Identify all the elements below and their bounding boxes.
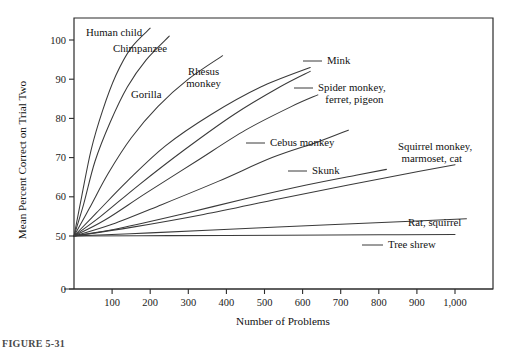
x-tick-label: 300: [180, 297, 196, 308]
series-label: monkey: [186, 77, 221, 89]
series-label: Rhesus: [188, 65, 219, 77]
x-axis-ticks: 1002003004005006007008009001,000: [104, 289, 467, 308]
y-tick-label: 0: [61, 284, 66, 295]
series-curve: [74, 28, 150, 236]
series-curve: [74, 36, 169, 236]
x-tick-label: 100: [104, 297, 120, 308]
series-curve: [74, 67, 310, 236]
x-tick-label: 500: [257, 297, 273, 308]
x-tick-label: 800: [371, 297, 387, 308]
series-label: Tree shrew: [388, 238, 436, 250]
series-label: Mink: [327, 54, 351, 66]
x-tick-label: 600: [295, 297, 311, 308]
series-curve: [74, 95, 318, 236]
series-label: ferret, pigeon: [325, 93, 384, 105]
series-label: Rat, squirrel: [408, 216, 461, 228]
data-curves: [74, 28, 466, 236]
line-chart: 05060708090100 1002003004005006007008009…: [0, 0, 511, 352]
y-tick-label: 60: [56, 191, 67, 202]
series-label: Cebus monkey: [270, 136, 335, 148]
y-tick-label: 50: [56, 231, 67, 242]
x-tick-label: 1,000: [443, 297, 467, 308]
y-axis-title: Mean Percent Correct on Trial Two: [16, 80, 28, 239]
series-label: marmoset, cat: [402, 152, 463, 164]
series-label: Skunk: [312, 164, 340, 176]
figure-caption: FIGURE 5-31: [2, 338, 65, 350]
y-axis-ticks: 05060708090100: [50, 35, 74, 295]
x-tick-label: 400: [219, 297, 235, 308]
series-labels: Human childChimpanzeeGorillaRhesusmonkey…: [86, 26, 473, 250]
y-tick-label: 80: [56, 113, 67, 124]
x-axis-title: Number of Problems: [236, 315, 330, 327]
y-tick-label: 70: [56, 152, 67, 163]
y-tick-label: 90: [56, 74, 67, 85]
figure-container: 05060708090100 1002003004005006007008009…: [0, 0, 511, 352]
x-tick-label: 900: [409, 297, 425, 308]
series-label: Spider monkey,: [318, 81, 386, 93]
series-label: Gorilla: [131, 88, 162, 100]
series-label: Squirrel monkey,: [398, 140, 473, 152]
y-tick-label: 100: [50, 35, 66, 46]
series-curve: [74, 234, 455, 236]
series-label: Human child: [86, 26, 143, 38]
x-tick-label: 700: [333, 297, 349, 308]
x-tick-label: 200: [142, 297, 158, 308]
series-curve: [74, 169, 386, 236]
series-label: Chimpanzee: [113, 42, 167, 54]
